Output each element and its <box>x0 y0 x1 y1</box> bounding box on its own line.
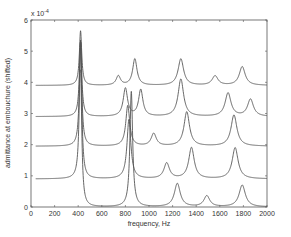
y-axis-label: admittance at embouchure (shifted) <box>4 58 12 168</box>
y-tick-label: 6 <box>24 17 28 24</box>
y-multiplier: x 10-4 <box>31 8 49 17</box>
chart: 0200400600800100012001400160018002000 01… <box>0 0 291 237</box>
y-axis: 0123456 <box>24 17 267 211</box>
x-tick-label: 800 <box>120 210 132 217</box>
y-tick-label: 2 <box>24 141 28 148</box>
x-tick-label: 1400 <box>188 210 204 217</box>
x-tick-label: 1600 <box>212 210 228 217</box>
x-axis: 0200400600800100012001400160018002000 <box>29 20 275 217</box>
trace-line <box>36 31 267 86</box>
y-tick-label: 3 <box>24 110 28 117</box>
trace-line <box>36 42 267 117</box>
y-tick-label: 0 <box>24 204 28 211</box>
x-tick-label: 1800 <box>236 210 252 217</box>
x-tick-label: 1200 <box>165 210 181 217</box>
y-tick-label: 1 <box>24 172 28 179</box>
x-tick-label: 0 <box>29 210 33 217</box>
x-tick-label: 2000 <box>259 210 275 217</box>
y-tick-label: 4 <box>24 79 28 86</box>
x-tick-label: 600 <box>96 210 108 217</box>
y-tick-label: 5 <box>24 48 28 55</box>
x-tick-label: 400 <box>72 210 84 217</box>
trace-line <box>36 40 267 146</box>
trace-line <box>81 70 267 207</box>
x-tick-label: 200 <box>49 210 61 217</box>
x-axis-label: frequency, Hz <box>128 220 171 228</box>
traces <box>36 31 267 207</box>
trace-line <box>36 42 267 179</box>
x-tick-label: 1000 <box>141 210 157 217</box>
